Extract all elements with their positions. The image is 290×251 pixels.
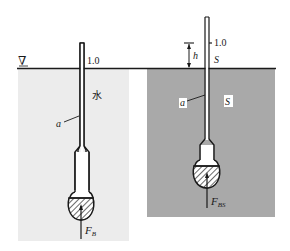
left-scale-mark-label: 1.0 bbox=[87, 55, 100, 66]
left-liquid-label: 水 bbox=[92, 90, 102, 101]
hydrometer-diagram: ∇ 1.0 水 a FB bbox=[0, 0, 290, 251]
right-stem-label: a bbox=[180, 97, 185, 108]
height-label: h bbox=[193, 50, 198, 61]
right-scale-mark-label: 1.0 bbox=[214, 37, 227, 48]
left-stem-label: a bbox=[56, 118, 61, 129]
right-liquid-label: S bbox=[225, 96, 230, 107]
right-surface-label: S bbox=[214, 54, 219, 65]
